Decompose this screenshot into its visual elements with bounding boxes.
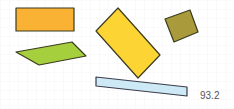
diagram-canvas bbox=[0, 0, 234, 109]
value-label: 93.2 bbox=[200, 90, 219, 101]
orange-rectangle bbox=[16, 8, 74, 31]
